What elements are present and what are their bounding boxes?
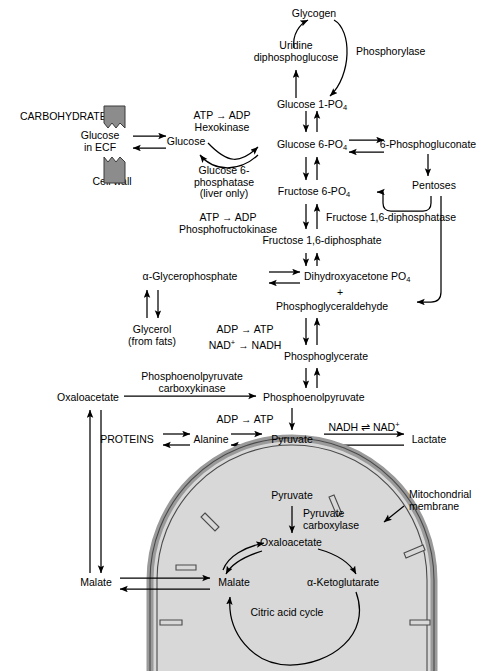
label-atp-adp-pfk: ATP → ADP — [200, 212, 257, 224]
label-nad-nadh: NAD+ → NADH — [209, 337, 282, 352]
arrow-pentoses-to-f6p — [377, 192, 431, 211]
label-pyruvate-carboxylase-line2: carboxylase — [303, 520, 359, 532]
label-glucose-6-phosphate: Glucose 6-PO4 — [277, 139, 347, 154]
arrow-glucose-to-g6p — [208, 143, 258, 159]
label-phosphoenolpyruvate: Phosphoenolpyruvate — [263, 392, 365, 404]
label-malate-mitochondrial: Malate — [218, 577, 250, 589]
label-glycerol-from-fats: Glycerol(from fats) — [128, 324, 176, 347]
diagram-vector-layer — [0, 0, 489, 671]
crista — [410, 620, 430, 625]
label-mitochondrial-membrane-line1: Mitochondrial — [409, 489, 471, 501]
label-6-phosphogluconate: 6-Phosphogluconate — [380, 139, 476, 151]
label-oxaloacetate-mitochondrial: Oxaloacetate — [260, 537, 322, 549]
label-fructose-16-diphosphate: Fructose 1,6-diphosphate — [262, 235, 381, 247]
label-oxaloacetate-cytoplasm: Oxaloacetate — [57, 392, 119, 404]
label-phosphorylase: Phosphorylase — [356, 46, 425, 58]
label-lactate: Lactate — [412, 434, 446, 446]
label-cell-wall: Cell wall — [92, 176, 131, 188]
label-adp-atp: ADP → ATP — [217, 324, 274, 336]
metabolism-diagram: Glycogen Uridinediphosphoglucose Phospho… — [0, 0, 489, 671]
mitochondrion-matrix — [150, 438, 434, 671]
label-dihydroxyacetone-phosphate: Dihydroxyacetone PO4 — [304, 271, 410, 286]
label-pyruvate-carboxylase-line1: Pyruvate — [303, 508, 344, 520]
label-alpha-ketoglutarate: α-Ketoglutarate — [307, 577, 379, 589]
label-fructose-16-diphosphatase: Fructose 1,6-diphosphatase — [326, 212, 456, 224]
crista — [160, 620, 182, 625]
label-proteins: PROTEINS — [100, 434, 154, 446]
label-malate-cytoplasm: Malate — [80, 577, 112, 589]
label-alanine: Alanine — [193, 434, 228, 446]
label-pyruvate-cytoplasm: Pyruvate — [271, 434, 312, 446]
label-pyruvate-mitochondrial: Pyruvate — [271, 490, 312, 502]
label-hexokinase: Hexokinase — [195, 122, 250, 134]
label-pepck-line1: Phosphoenolpyruvate — [141, 371, 243, 383]
label-pentoses: Pentoses — [412, 180, 456, 192]
label-uridine-diphosphoglucose: Uridinediphosphoglucose — [254, 40, 339, 63]
label-glucose-6-phosphatase: Glucose 6-phosphatase(liver only) — [194, 165, 254, 200]
label-glycogen: Glycogen — [292, 8, 336, 20]
crista — [176, 565, 196, 570]
label-phosphoglyceraldehyde: Phosphoglyceraldehyde — [276, 301, 388, 313]
label-adp-atp-pyruvatekinase: ADP → ATP — [217, 414, 274, 426]
label-carbohydrates: CARBOHYDRATES — [20, 111, 114, 123]
label-glucose-1-phosphate: Glucose 1-PO4 — [277, 99, 347, 114]
label-glucose-in-ecf: Glucosein ECF — [81, 130, 120, 153]
mitochondrion — [150, 438, 434, 671]
label-nadh-nad-equilibrium: NADH ⇌ NAD+ — [328, 419, 399, 434]
label-phosphoglycerate: Phosphoglycerate — [284, 351, 368, 363]
label-mitochondrial-membrane-line2: membrane — [409, 501, 459, 513]
label-citric-acid-cycle: Citric acid cycle — [251, 607, 324, 619]
label-atp-adp-hexokinase: ATP → ADP — [194, 110, 251, 122]
label-glucose: Glucose — [167, 136, 206, 148]
label-fructose-6-phosphate: Fructose 6-PO4 — [278, 186, 350, 201]
label-pepck-line2: carboxykinase — [158, 383, 225, 395]
label-alpha-glycerophosphate: α-Glycerophosphate — [143, 271, 238, 283]
label-plus-sign: + — [337, 287, 343, 299]
